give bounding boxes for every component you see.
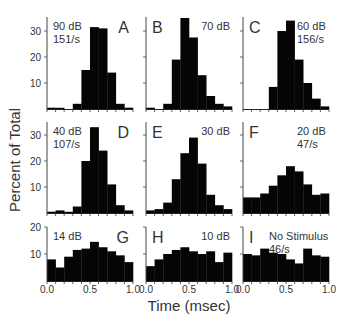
histogram-bar	[215, 205, 224, 213]
histogram-figure: Percent of Total Time (msec) 10203090 dB…	[0, 0, 348, 324]
histogram-bar	[286, 166, 295, 213]
histogram-bar	[56, 268, 65, 282]
histogram-bar	[260, 249, 269, 281]
histogram-bar	[312, 99, 321, 109]
histogram-bar	[277, 254, 286, 281]
histogram-bar	[312, 255, 321, 281]
x-tick-label: 0.0	[236, 284, 250, 295]
histogram-bar	[56, 108, 65, 109]
histogram-bar	[107, 184, 116, 213]
y-axis-label: Percent of Total	[6, 108, 23, 212]
x-tick-label: 0.5	[83, 284, 97, 295]
panel-letter: C	[249, 19, 261, 36]
histogram-bar	[64, 257, 73, 281]
y-tick-label: 30	[30, 26, 42, 37]
histogram-bar	[155, 259, 164, 281]
histogram-bar	[215, 262, 224, 281]
histogram-bar	[73, 207, 82, 214]
histogram-bar	[223, 106, 232, 109]
panel-letter: D	[117, 124, 129, 141]
x-tick-label: 0.0	[139, 284, 153, 295]
histogram-bar	[295, 171, 304, 213]
y-tick-label: 10	[30, 249, 42, 260]
histogram-bar	[146, 108, 155, 109]
panel-rate-label: 47/s	[297, 138, 318, 150]
histogram-bar	[252, 255, 261, 281]
histogram-bar	[47, 212, 56, 213]
histogram-bar	[295, 263, 304, 281]
panel-rate-label: 46/s	[269, 243, 290, 255]
histogram-bar	[295, 60, 304, 109]
panel-rate-label: 151/s	[53, 33, 80, 45]
histogram-bar	[155, 209, 164, 213]
histogram-bar	[198, 254, 207, 281]
histogram-bar	[116, 104, 125, 109]
histogram-bar	[73, 104, 82, 109]
panel-grid: 10203090 dB151/sAB70 dBC60 dB156/s102030…	[30, 17, 337, 295]
histogram-bar	[206, 251, 215, 281]
histogram-bar	[320, 257, 329, 281]
panel-letter: B	[152, 19, 163, 36]
panel-stimulus-label: 70 dB	[201, 20, 230, 32]
y-tick-label: 20	[30, 52, 42, 63]
histogram-bar	[223, 253, 232, 281]
histogram-bar	[269, 253, 278, 281]
histogram-bar	[172, 179, 181, 213]
panel-letter: F	[249, 124, 259, 141]
histogram-bar	[56, 210, 65, 213]
panel-stimulus-label: 60 dB	[297, 20, 326, 32]
histogram-bar	[312, 195, 321, 213]
histogram-bar	[99, 151, 108, 213]
histogram-bar	[146, 210, 155, 213]
histogram-bar	[172, 60, 181, 109]
panel-letter: H	[152, 229, 164, 246]
panel-b: B70 dB	[143, 17, 232, 112]
x-tick-label: 1.0	[322, 284, 336, 295]
histogram-bar	[303, 83, 312, 109]
histogram-bar	[269, 87, 278, 109]
panel-e: E30 dB	[143, 122, 232, 216]
histogram-bar	[81, 249, 90, 281]
histogram-bar	[215, 104, 224, 109]
panel-letter: I	[249, 229, 253, 246]
histogram-bar	[260, 194, 269, 214]
panel-a: 10203090 dB151/sA	[30, 17, 133, 112]
histogram-bar	[116, 205, 125, 213]
y-tick-label: 10	[30, 182, 42, 193]
histogram-bar	[223, 209, 232, 213]
panel-stimulus-label: 40 dB	[53, 125, 82, 137]
y-tick-label: 10	[30, 78, 42, 89]
histogram-bar	[124, 210, 133, 213]
histogram-bar	[277, 175, 286, 213]
histogram-bar	[198, 164, 207, 213]
histogram-bar	[73, 250, 82, 281]
histogram-bar	[180, 18, 189, 109]
histogram-bar	[90, 127, 99, 213]
histogram-bar	[99, 28, 108, 109]
histogram-bar	[124, 108, 133, 109]
histogram-bar	[198, 75, 207, 109]
histogram-bar	[146, 266, 155, 281]
panel-rate-label: 156/s	[297, 33, 324, 45]
panel-rate-label: 107/s	[53, 138, 80, 150]
histogram-bar	[320, 106, 329, 109]
histogram-bar	[81, 70, 90, 109]
panel-letter: A	[118, 19, 129, 36]
histogram-bar	[243, 197, 252, 213]
panel-stimulus-label: No Stimulus	[269, 230, 329, 242]
histogram-bar	[90, 27, 99, 109]
panel-stimulus-label: 10 dB	[201, 230, 230, 242]
x-tick-label: 0.5	[182, 284, 196, 295]
histogram-bar	[286, 259, 295, 281]
histogram-bar	[206, 96, 215, 109]
histogram-bar	[107, 251, 116, 281]
histogram-bar	[206, 195, 215, 213]
histogram-bar	[303, 184, 312, 213]
panel-stimulus-label: 90 dB	[53, 20, 82, 32]
histogram-bar	[64, 212, 73, 213]
x-axis-label: Time (msec)	[148, 297, 231, 314]
histogram-bar	[180, 247, 189, 281]
panel-stimulus-label: 14 dB	[53, 230, 82, 242]
panel-letter: E	[152, 124, 163, 141]
x-tick-label: 0.0	[40, 284, 54, 295]
